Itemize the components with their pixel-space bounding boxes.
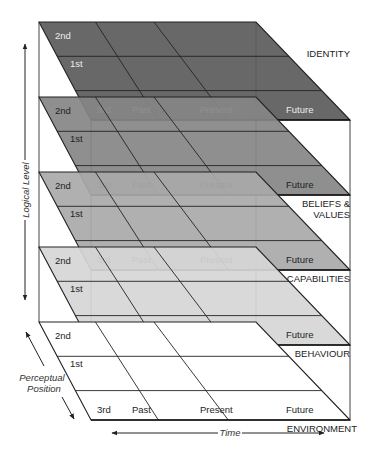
label-2nd: 2nd xyxy=(55,330,71,341)
label-future: Future xyxy=(286,104,313,115)
level-name: IDENTITY xyxy=(307,48,351,59)
label-past: Past xyxy=(132,404,151,415)
label-1st: 1st xyxy=(70,208,83,219)
label-future: Future xyxy=(286,254,313,265)
level-name: CAPABILITIES xyxy=(287,273,350,284)
logical-level-axis: Logical Level xyxy=(20,44,31,300)
label-future: Future xyxy=(286,179,313,190)
perceptual-label-line1: Perceptual xyxy=(19,372,65,383)
label-2nd: 2nd xyxy=(55,180,71,191)
label-future: Future xyxy=(286,329,313,340)
label-present: Present xyxy=(200,404,233,415)
logical-level-label: Logical Level xyxy=(20,161,31,217)
label-1st: 1st xyxy=(70,358,83,369)
label-3rd: 3rd xyxy=(97,404,111,415)
label-1st: 1st xyxy=(70,133,83,144)
level-name: BELIEFS & xyxy=(302,198,351,209)
level-name-line2: VALUES xyxy=(313,209,350,220)
label-future: Future xyxy=(286,404,313,415)
label-1st: 1st xyxy=(70,283,83,294)
level-name: ENVIRONMENT xyxy=(287,423,357,434)
level-name: BEHAVIOUR xyxy=(295,348,350,359)
logical-levels-diagram: 2nd1st3rdPastPresentFutureIDENTITY2nd1st… xyxy=(0,0,371,460)
label-2nd: 2nd xyxy=(55,30,71,41)
label-2nd: 2nd xyxy=(55,105,71,116)
label-2nd: 2nd xyxy=(55,255,71,266)
label-1st: 1st xyxy=(70,58,83,69)
time-label: Time xyxy=(219,427,240,438)
perceptual-label-line2: Position xyxy=(27,383,61,394)
